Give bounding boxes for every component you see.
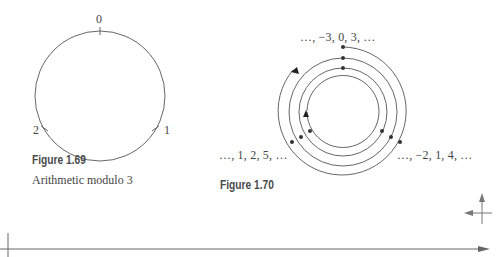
mod3-circle xyxy=(35,27,165,161)
arrow-left-small-icon xyxy=(464,210,473,216)
label-sequence-left: …, 1, 2, 5, … xyxy=(219,148,288,163)
page-rule xyxy=(0,233,478,257)
arrow-up-small-icon xyxy=(479,193,485,202)
figure-169-title: Figure 1.69 xyxy=(32,153,86,167)
arrow-right-icon xyxy=(478,246,490,252)
figure-169-caption: Arithmetic modulo 3 xyxy=(32,173,133,188)
label-two: 2 xyxy=(33,123,39,138)
figures-canvas xyxy=(0,0,497,257)
spiral-arrowheads xyxy=(291,67,309,117)
label-one: 1 xyxy=(164,123,170,138)
arrow-up-icon xyxy=(303,110,309,117)
spiral-dots xyxy=(290,45,402,144)
figure-170-title: Figure 1.70 xyxy=(220,178,274,192)
label-sequence-top: …, −3, 0, 3, … xyxy=(300,30,376,45)
label-sequence-right: …, −2, 1, 4, … xyxy=(397,148,473,163)
label-zero: 0 xyxy=(96,12,102,27)
